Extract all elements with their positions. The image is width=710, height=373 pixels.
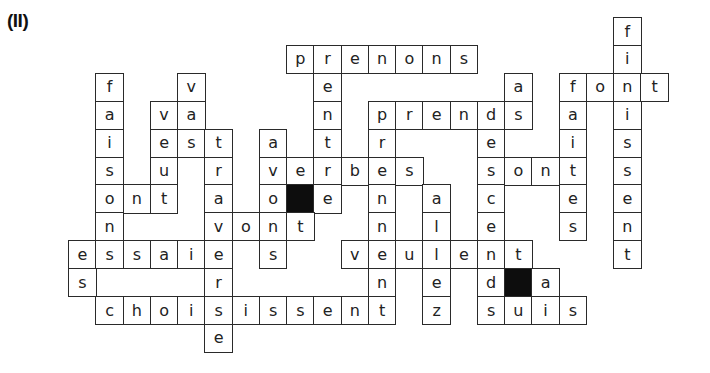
crossword-cell: e	[150, 129, 179, 158]
crossword-cell: i	[613, 101, 642, 130]
crossword-cell: t	[559, 157, 588, 186]
crossword-cell: a	[95, 101, 124, 130]
crossword-cell: n	[259, 212, 288, 241]
crossword-cell: s	[259, 240, 288, 269]
crossword-cell: e	[204, 240, 233, 269]
crossword-cell: t	[640, 73, 669, 102]
crossword-cell: a	[204, 184, 233, 213]
crossword-cell: a	[559, 101, 588, 130]
crossword-cell: s	[477, 157, 506, 186]
crossword-cell: t	[368, 296, 397, 325]
crossword-cell: f	[613, 17, 642, 46]
crossword-cell: t	[150, 184, 179, 213]
crossword-cell: s	[613, 157, 642, 186]
crossword-cell: d	[477, 101, 506, 130]
crossword-cell: d	[477, 268, 506, 297]
crossword-cell: c	[477, 184, 506, 213]
crossword-cell: s	[504, 101, 533, 130]
crossword-cell: n	[368, 212, 397, 241]
crossword-cell: e	[313, 73, 342, 102]
crossword-cell: a	[504, 73, 533, 102]
crossword-cell: f	[559, 73, 588, 102]
crossword-cell: z	[422, 296, 451, 325]
crossword-cell: e	[477, 212, 506, 241]
crossword-cell: o	[259, 184, 288, 213]
crossword-cell: r	[204, 157, 233, 186]
crossword-cell: e	[450, 240, 479, 269]
crossword-cell: p	[368, 101, 397, 130]
crossword-cell: r	[313, 157, 342, 186]
crossword-cell: c	[95, 296, 124, 325]
crossword-cell: o	[395, 45, 424, 74]
crossword-cell: p	[286, 45, 315, 74]
black-square	[286, 184, 315, 213]
crossword-cell: s	[95, 240, 124, 269]
crossword-cell: a	[531, 268, 560, 297]
crossword-cell: e	[313, 296, 342, 325]
crossword-cell: l	[422, 212, 451, 241]
crossword-cell: a	[150, 240, 179, 269]
crossword-cell: i	[613, 45, 642, 74]
crossword-cell: s	[559, 296, 588, 325]
crossword-cell: o	[586, 73, 615, 102]
crossword-cell: r	[313, 45, 342, 74]
crossword-cell: n	[613, 212, 642, 241]
crossword-cell: s	[559, 212, 588, 241]
crossword-cell: v	[150, 101, 179, 130]
crossword-cell: t	[504, 240, 533, 269]
crossword-cell: s	[177, 129, 206, 158]
crossword-cell: s	[68, 268, 97, 297]
crossword-cell: n	[341, 296, 370, 325]
crossword-cell: n	[95, 212, 124, 241]
crossword-cell: s	[204, 296, 233, 325]
crossword-cell: t	[313, 129, 342, 158]
crossword-cell: i	[232, 296, 261, 325]
crossword-cell: s	[450, 45, 479, 74]
crossword-cell: s	[286, 296, 315, 325]
crossword-cell: n	[368, 45, 397, 74]
crossword-cell: i	[177, 296, 206, 325]
crossword-cell: n	[313, 101, 342, 130]
crossword-cell: s	[95, 157, 124, 186]
crossword-cell: e	[341, 45, 370, 74]
crossword-cell: i	[95, 129, 124, 158]
crossword-cell: e	[204, 324, 233, 353]
crossword-cell: v	[177, 73, 206, 102]
crossword-cell: s	[613, 129, 642, 158]
crossword-cell: e	[613, 184, 642, 213]
crossword-cell: v	[341, 240, 370, 269]
crossword-cell: h	[123, 296, 152, 325]
crossword-cell: u	[150, 157, 179, 186]
crossword-cell: a	[422, 184, 451, 213]
crossword-cell: e	[422, 101, 451, 130]
crossword-cell: s	[395, 157, 424, 186]
crossword-cell: o	[150, 296, 179, 325]
crossword-cell: e	[477, 129, 506, 158]
crossword-cell: r	[368, 129, 397, 158]
crossword-cell: a	[177, 101, 206, 130]
crossword-cell: e	[368, 240, 397, 269]
crossword-cell: f	[95, 73, 124, 102]
crossword-cell: n	[368, 268, 397, 297]
crossword-grid: fprenonsifveafontavanprendsaiiestatreiss…	[0, 0, 710, 373]
crossword-cell: n	[477, 240, 506, 269]
crossword-cell: u	[395, 240, 424, 269]
crossword-cell: b	[341, 157, 370, 186]
black-square	[504, 268, 533, 297]
crossword-cell: e	[68, 240, 97, 269]
crossword-cell: n	[368, 184, 397, 213]
crossword-cell: v	[204, 212, 233, 241]
crossword-cell: e	[559, 184, 588, 213]
crossword-cell: t	[286, 212, 315, 241]
crossword-cell: n	[531, 157, 560, 186]
crossword-cell: n	[613, 73, 642, 102]
crossword-cell: a	[259, 129, 288, 158]
crossword-cell: u	[504, 296, 533, 325]
crossword-cell: t	[613, 240, 642, 269]
crossword-cell: r	[395, 101, 424, 130]
crossword-cell: e	[422, 268, 451, 297]
crossword-cell: e	[313, 184, 342, 213]
crossword-cell: o	[504, 157, 533, 186]
crossword-cell: v	[259, 157, 288, 186]
crossword-cell: s	[259, 296, 288, 325]
